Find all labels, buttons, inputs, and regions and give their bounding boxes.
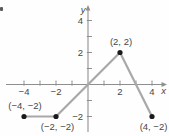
point-label: (2, 2) xyxy=(110,36,132,47)
x-tick-label: 2 xyxy=(117,86,122,97)
point-label: (4, −2) xyxy=(140,121,168,132)
data-point xyxy=(149,114,154,119)
point-label: (−2, −2) xyxy=(41,121,74,132)
y-tick-label: 4 xyxy=(78,15,83,26)
x-tick-label: −2 xyxy=(51,86,62,97)
y-axis-arrow-icon xyxy=(86,5,91,11)
data-point xyxy=(53,114,58,119)
data-point xyxy=(117,50,122,55)
x-tick-label: −4 xyxy=(19,86,30,97)
coordinate-plane-graph: −4−22442−2xy(−4, −2)(−2, −2)(2, 2)(4, −2… xyxy=(0,0,169,136)
x-axis-label: x xyxy=(160,85,167,96)
point-label: (−4, −2) xyxy=(8,100,41,111)
graph-canvas: −4−22442−2xy(−4, −2)(−2, −2)(2, 2)(4, −2… xyxy=(0,0,169,136)
y-tick-label: 2 xyxy=(78,47,83,58)
x-tick-label: 4 xyxy=(149,86,154,97)
y-axis-label: y xyxy=(80,4,87,15)
data-point xyxy=(21,114,26,119)
